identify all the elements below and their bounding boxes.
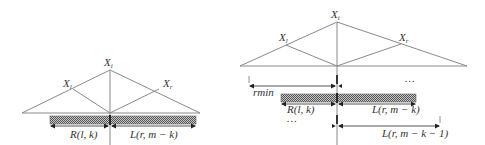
- right-node-apex-label: Xi: [330, 8, 340, 22]
- right-node-left-label: Xl: [278, 31, 288, 45]
- right-node-right-label: Xr: [398, 31, 409, 45]
- right-left-edge-line: [240, 22, 337, 66]
- right-span-label: L(r, m − k): [129, 128, 178, 141]
- xr-to-center-line: [110, 89, 159, 113]
- right-xr-to-center-line: [337, 44, 401, 66]
- row-hatched: R(l, k) L(r, m − k): [281, 93, 420, 116]
- right-diagram: Xi Xl Xr … rmin R(l, k) L(r, m − k): [240, 8, 467, 145]
- row-bottom: … L(r, m − k − 1): [287, 112, 449, 140]
- row3-ellipsis: …: [287, 112, 297, 124]
- node-right-label: Xr: [162, 77, 173, 91]
- node-apex-label: Xi: [103, 56, 113, 70]
- xl-to-center-line: [73, 89, 110, 113]
- rmin-label: rmin: [253, 86, 274, 98]
- row1-ellipsis: …: [405, 72, 415, 84]
- right-hatched-bar: [281, 94, 416, 102]
- row3-right-label: L(r, m − k − 1): [381, 127, 449, 140]
- left-span-label: R(l, k): [69, 128, 98, 141]
- left-diagram: Xi Xl Xr R(l, k) L(r, m − k): [22, 56, 200, 145]
- hatched-segment-bar: [50, 116, 196, 124]
- node-left-label: Xl: [62, 77, 72, 91]
- row2-right-label: L(r, m − k): [371, 103, 420, 116]
- right-xl-to-center-line: [286, 45, 337, 66]
- diagram-canvas: Xi Xl Xr R(l, k) L(r, m − k) Xi Xl Xr …: [0, 0, 485, 145]
